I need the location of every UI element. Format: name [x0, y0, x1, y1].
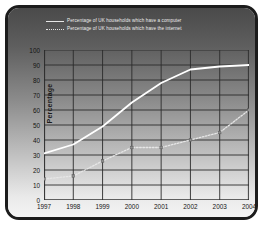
plot-area: 0102030405060708090100 19971998199920002…	[44, 50, 249, 200]
data-point-marker	[160, 146, 163, 149]
y-tick-label: 40	[33, 137, 40, 144]
x-tick-label: 2001	[154, 203, 168, 210]
data-point-marker	[248, 109, 249, 112]
x-tick-label: 1999	[95, 203, 109, 210]
solid-line-swatch-icon	[46, 21, 64, 22]
data-point-marker	[101, 160, 104, 163]
dotted-line-swatch-icon	[46, 29, 64, 30]
y-tick-label: 30	[33, 152, 40, 159]
y-tick-label: 10	[33, 182, 40, 189]
y-tick-label: 100	[29, 47, 40, 54]
chart-frame: Percentage of UK households which have a…	[5, 5, 258, 220]
x-tick-label: 2000	[125, 203, 139, 210]
legend-label-internet: Percentage of UK households which have t…	[67, 25, 182, 33]
y-tick-label: 90	[33, 62, 40, 69]
y-tick-label: 60	[33, 107, 40, 114]
data-point-marker	[218, 131, 221, 134]
chart-legend: Percentage of UK households which have a…	[46, 17, 246, 33]
x-tick-label: 1997	[37, 203, 51, 210]
chart-figure: Percentage of UK households which have a…	[0, 0, 263, 230]
y-tick-label: 70	[33, 92, 40, 99]
y-tick-label: 50	[33, 122, 40, 129]
legend-entry-computer: Percentage of UK households which have a…	[46, 17, 246, 25]
x-tick-label: 2004	[242, 203, 256, 210]
chart-canvas	[44, 50, 249, 200]
x-tick-label: 2002	[183, 203, 197, 210]
y-tick-label: 20	[33, 167, 40, 174]
y-axis-title: Percentage	[46, 69, 53, 139]
data-point-marker	[44, 178, 45, 181]
data-point-marker	[131, 146, 134, 149]
legend-entry-internet: Percentage of UK households which have t…	[46, 25, 246, 33]
data-point-marker	[72, 175, 75, 178]
x-axis-title: Year	[44, 216, 249, 220]
data-point-marker	[189, 139, 192, 142]
y-tick-label: 80	[33, 77, 40, 84]
x-tick-label: 2003	[213, 203, 227, 210]
legend-label-computer: Percentage of UK households which have a…	[67, 17, 181, 25]
x-tick-label: 1998	[66, 203, 80, 210]
